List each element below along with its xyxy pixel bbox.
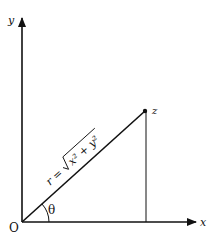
angle-label: θ: [48, 203, 55, 217]
origin-label: O: [9, 221, 19, 235]
point-label: z: [151, 105, 158, 116]
y-axis-label: y: [7, 14, 15, 27]
point-z: [143, 109, 147, 113]
radius-formula: r = x² + y²: [41, 128, 105, 188]
x-axis-label: x: [200, 216, 207, 229]
radius-expression: x² + y²: [66, 133, 103, 168]
radius-line: [22, 111, 145, 222]
polar-diagram: y x O z θ r = x² + y²: [0, 0, 215, 239]
